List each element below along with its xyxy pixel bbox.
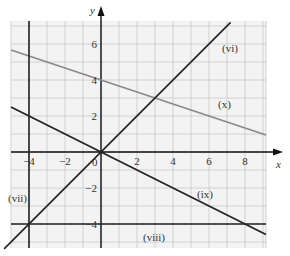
origin-label: 0 — [92, 156, 98, 168]
x-tick-label: −2 — [59, 155, 71, 167]
line-label-vii: (vii) — [8, 192, 27, 205]
y-tick-label: 4 — [92, 74, 98, 86]
y-axis-arrow-icon — [98, 6, 105, 16]
x-tick-label: 8 — [242, 155, 248, 167]
line-label-vi: (vi) — [222, 42, 238, 55]
coordinate-graph: yx0−4−22468642−2−4(vi)(vii)(viii)(ix)(x) — [0, 0, 290, 256]
grid-background — [11, 21, 266, 248]
y-tick-label: 2 — [92, 110, 98, 122]
x-tick-label: 2 — [134, 155, 140, 167]
y-tick-label: −4 — [85, 218, 97, 230]
x-tick-label: −4 — [23, 155, 35, 167]
y-tick-label: 6 — [92, 38, 98, 50]
x-tick-label: 4 — [170, 155, 176, 167]
y-axis-label: y — [89, 4, 95, 16]
x-tick-label: 6 — [206, 155, 212, 167]
y-tick-label: −2 — [85, 182, 97, 194]
line-label-x: (x) — [218, 98, 231, 111]
x-axis-arrow-icon — [273, 149, 283, 156]
line-label-viii: (viii) — [143, 231, 165, 244]
line-label-ix: (ix) — [197, 188, 213, 201]
x-axis-label: x — [275, 158, 281, 170]
